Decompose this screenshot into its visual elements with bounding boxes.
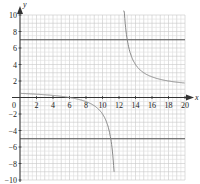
y-tick-label: −2 [8,110,17,119]
x-tick-label: 16 [148,101,156,110]
x-axis-arrow-icon [186,95,194,101]
y-tick-label: 4 [13,61,17,70]
x-tick-label: 12 [115,101,123,110]
x-tick-label: 14 [132,101,140,110]
y-tick-label: 10 [9,11,17,20]
y-tick-label: −6 [8,143,17,152]
y-tick-label: −10 [4,176,17,184]
graph: y x 0 2468101214161820108642−2−4−6−8−10 [0,0,200,184]
x-tick-label: 2 [35,101,39,110]
x-tick-label: 4 [51,101,55,110]
y-axis-label: y [22,0,27,9]
x-axis-label: x [194,93,199,102]
x-tick-label: 18 [165,101,173,110]
x-tick-label: 20 [181,101,189,110]
x-tick-label: 10 [99,101,107,110]
y-tick-label: 8 [13,28,17,37]
y-tick-label: 6 [13,44,17,53]
y-tick-label: 2 [13,77,17,86]
y-tick-label: −8 [8,160,17,169]
origin-label: 0 [12,101,16,110]
y-tick-label: −4 [8,127,17,136]
x-tick-label: 6 [68,101,72,110]
